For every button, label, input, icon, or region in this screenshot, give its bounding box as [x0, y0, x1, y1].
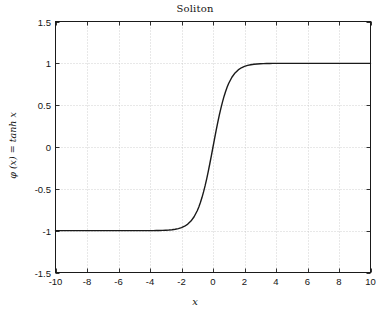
x-tick-label: -2 — [177, 276, 185, 287]
x-tick-label: 4 — [273, 276, 278, 287]
figure-canvas: Soliton φ (x) = tanh x x -10-8-6-4-20246… — [0, 0, 390, 319]
series-line-tanh — [56, 63, 371, 230]
plot-area — [0, 0, 390, 319]
y-tick-label: 0 — [10, 142, 51, 153]
y-tick-label: -1 — [10, 225, 51, 236]
y-tick-label: 1.5 — [10, 16, 51, 27]
x-tick-label: -8 — [83, 276, 91, 287]
y-tick-label: 0.5 — [10, 100, 51, 111]
y-tick-label: -0.5 — [10, 183, 51, 194]
y-tick-label: 1 — [10, 58, 51, 69]
x-tick-label: -4 — [146, 276, 154, 287]
x-tick-label: 6 — [305, 276, 310, 287]
x-tick-label: 0 — [210, 276, 215, 287]
x-tick-label: -6 — [114, 276, 122, 287]
x-tick-label: 10 — [365, 276, 376, 287]
x-tick-label: 8 — [336, 276, 341, 287]
x-tick-label: 2 — [242, 276, 247, 287]
y-tick-label: -1.5 — [10, 267, 51, 278]
